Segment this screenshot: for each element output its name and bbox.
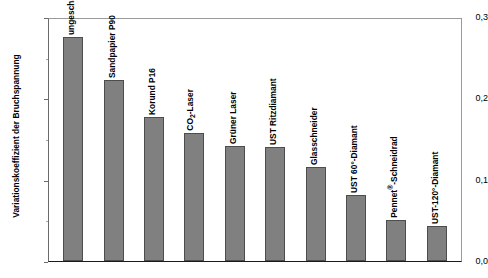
bar: [144, 117, 164, 261]
bar-label-text: UST Ritzdiamant: [269, 79, 278, 146]
bar-series: ungeschädigtSandpapier P90Korund P16CO2-…: [49, 19, 461, 261]
bar-label-text: Korund P16: [148, 68, 157, 115]
y-tick-mark: [44, 262, 48, 263]
bar-label-text: Grüner Laser: [229, 92, 238, 145]
bar: [104, 80, 124, 261]
bar-slot: UST 60°-Diamant: [346, 19, 366, 261]
bar-slot: Glasschneider: [306, 19, 326, 261]
y-axis-title: Variationskoeffizient der Bruchspannung: [0, 0, 16, 278]
bar: [306, 167, 326, 261]
bar: [386, 220, 406, 261]
bar-label-text: Sandpapier P90: [108, 16, 117, 79]
bar-label-text: CO2-Laser: [186, 89, 198, 131]
bar-slot: Grüner Laser: [225, 19, 245, 261]
bar-chart-figure: Variationskoeffizient der Bruchspannung …: [0, 0, 488, 278]
bar-label-text: Pennet®-Schneidrad: [387, 136, 400, 218]
bar-label-text: Glasschneider: [310, 107, 319, 165]
bar: [63, 37, 83, 261]
bar-slot: Korund P16: [144, 19, 164, 261]
plot-area: ungeschädigtSandpapier P90Korund P16CO2-…: [48, 18, 462, 262]
bar-label-text: UST 60°-Diamant: [350, 126, 359, 194]
bar: [184, 133, 204, 262]
bar-label-text: ungeschädigt: [67, 0, 76, 35]
bar: [225, 146, 245, 261]
bar-slot: CO2-Laser: [184, 19, 204, 261]
bar-slot: UST-120°-Diamant: [427, 19, 447, 261]
y-axis-title-text: Variationskoeffizient der Bruchspannung: [11, 16, 21, 256]
bar-slot: Sandpapier P90: [104, 19, 124, 261]
bar-slot: UST Ritzdiamant: [265, 19, 285, 261]
bar-label-text: UST-120°-Diamant: [431, 152, 440, 224]
bar: [265, 147, 285, 261]
bar-slot: Pennet®-Schneidrad: [386, 19, 406, 261]
bar: [346, 195, 366, 261]
bar-slot: ungeschädigt: [63, 19, 83, 261]
bar: [427, 226, 447, 261]
